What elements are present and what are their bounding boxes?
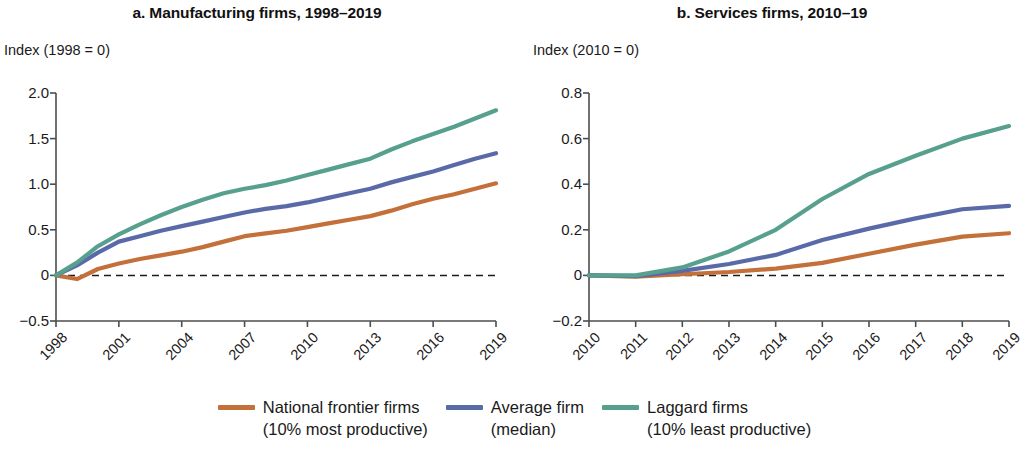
legend-sublabel: (10% least productive) — [647, 418, 811, 440]
x-tick-label: 2019 — [979, 329, 1023, 373]
x-tick-label: 2010 — [278, 329, 322, 373]
x-tick-label: 2015 — [793, 329, 837, 373]
x-tick-label: 2004 — [152, 329, 196, 373]
panel-a-plot-area — [55, 92, 495, 320]
x-tick-label: 2012 — [653, 329, 697, 373]
x-tick-label: 2010 — [559, 329, 603, 373]
y-tick-label: 1.0 — [28, 175, 49, 192]
legend-sublabel: (median) — [491, 418, 584, 440]
y-tick-label: 0 — [574, 266, 582, 283]
y-tick-label: −0.2 — [552, 312, 582, 329]
series-line — [589, 233, 1009, 276]
series-line — [56, 153, 496, 275]
chart-legend: National frontier firms(10% most product… — [0, 396, 1029, 460]
panel-b-title: b. Services firms, 2010–19 — [515, 4, 1029, 22]
legend-label: National frontier firms — [263, 396, 428, 418]
y-tick-label: 0.8 — [561, 84, 582, 101]
y-tick-label: 0 — [41, 266, 49, 283]
y-tick-label: 0.2 — [561, 220, 582, 237]
panel-a-y-tick-labels: 2.01.51.00.50−0.5 — [3, 92, 49, 320]
x-tick-label: 2016 — [404, 329, 448, 373]
y-tick-label: 0.4 — [561, 175, 582, 192]
x-tick-label: 2016 — [839, 329, 883, 373]
x-tick-label: 2001 — [89, 329, 133, 373]
panel-a-y-axis-unit: Index (1998 = 0) — [4, 42, 110, 58]
legend-swatch-laggard-icon — [602, 405, 639, 410]
panel-a-title: a. Manufacturing firms, 1998–2019 — [0, 4, 514, 22]
x-tick-label: 2013 — [699, 329, 743, 373]
legend-swatch-frontier-icon — [218, 405, 255, 410]
y-tick-label: 0.5 — [28, 220, 49, 237]
legend-row: National frontier firms(10% most product… — [0, 396, 1029, 440]
legend-item-laggard[interactable]: Laggard firms(10% least productive) — [602, 396, 811, 440]
legend-swatch-average-icon — [446, 405, 483, 410]
y-tick-label: 0.6 — [561, 129, 582, 146]
panel-b-y-tick-labels: 0.80.60.40.20−0.2 — [536, 92, 582, 320]
x-tick-label: 2007 — [215, 329, 259, 373]
series-line — [589, 126, 1009, 275]
x-tick-label: 2018 — [933, 329, 977, 373]
x-tick-label: 2014 — [746, 329, 790, 373]
panel-services: b. Services firms, 2010–19 Index (2010 =… — [515, 0, 1029, 392]
legend-item-average[interactable]: Average firm(median) — [446, 396, 584, 440]
x-tick-label: 2019 — [466, 329, 510, 373]
legend-item-frontier[interactable]: National frontier firms(10% most product… — [218, 396, 428, 440]
x-tick-label: 1998 — [26, 329, 70, 373]
x-tick-label: 2017 — [886, 329, 930, 373]
panel-b-y-axis-unit: Index (2010 = 0) — [533, 42, 639, 58]
legend-label: Laggard firms — [647, 396, 811, 418]
panel-b-plot-area — [588, 92, 1008, 320]
x-tick-label: 2013 — [341, 329, 385, 373]
y-tick-label: −0.5 — [19, 312, 49, 329]
y-tick-label: 1.5 — [28, 129, 49, 146]
y-tick-label: 2.0 — [28, 84, 49, 101]
panel-manufacturing: a. Manufacturing firms, 1998–2019 Index … — [0, 0, 514, 392]
x-tick-label: 2011 — [606, 329, 650, 373]
legend-label: Average firm — [491, 396, 584, 418]
series-line — [56, 110, 496, 275]
legend-sublabel: (10% most productive) — [263, 418, 428, 440]
